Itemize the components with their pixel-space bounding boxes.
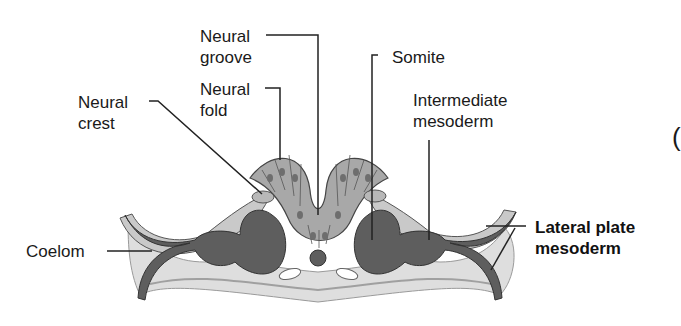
label-line: mesoderm bbox=[413, 111, 508, 132]
label-line: Lateral plate bbox=[535, 217, 635, 238]
label-line: mesoderm bbox=[535, 238, 635, 259]
label-line: Neural bbox=[200, 26, 252, 47]
label-line: groove bbox=[200, 47, 252, 68]
label-line: Intermediate bbox=[413, 90, 508, 111]
label-neural-crest: Neural crest bbox=[78, 92, 128, 134]
neural-crest-left bbox=[252, 191, 274, 203]
label-lateral-plate-mesoderm: Lateral plate mesoderm bbox=[535, 217, 635, 259]
neural-crest-right bbox=[364, 190, 386, 202]
leader-neural-fold bbox=[265, 88, 280, 160]
label-line: Coelom bbox=[26, 241, 85, 262]
label-line: fold bbox=[200, 100, 250, 121]
label-line: crest bbox=[78, 113, 128, 134]
label-intermediate-mesoderm: Intermediate mesoderm bbox=[413, 90, 508, 132]
edge-glyph: ( bbox=[672, 127, 681, 148]
label-neural-groove: Neural groove bbox=[200, 26, 252, 68]
label-line: Neural bbox=[78, 92, 128, 113]
label-line: Neural bbox=[200, 79, 250, 100]
label-line: Somite bbox=[392, 47, 445, 68]
label-neural-fold: Neural fold bbox=[200, 79, 250, 121]
notochord bbox=[310, 250, 326, 266]
label-coelom: Coelom bbox=[26, 241, 85, 262]
label-somite: Somite bbox=[392, 47, 445, 68]
